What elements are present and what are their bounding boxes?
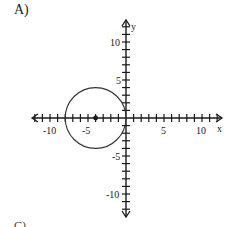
y-axis-label: y [131,21,136,32]
y-tick-label: 10 [110,37,120,48]
x-tick-label: -10 [43,125,56,136]
circle-center-point [93,116,98,121]
x-tick-label: 10 [196,125,206,136]
next-option-label-partial: C) [14,219,26,227]
coordinate-graph: y x -10 -5 5 10 10 5 -5 -10 [0,0,235,227]
y-tick-label: 5 [116,75,121,86]
x-tick-label: -5 [82,125,90,136]
x-axis-label: x [217,123,222,134]
y-tick-label: -10 [106,189,119,200]
x-tick-label: 5 [161,125,166,136]
y-tick-label: -5 [112,151,120,162]
